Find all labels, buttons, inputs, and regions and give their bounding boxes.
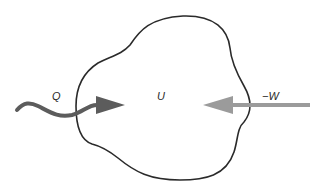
internal-energy-label: U	[157, 91, 165, 102]
heat-arrowhead-icon	[96, 96, 125, 114]
work-arrow-shaft	[230, 103, 310, 107]
work-arrowhead-icon	[203, 96, 233, 114]
heat-arrow	[17, 96, 125, 116]
work-label: −W	[262, 91, 279, 102]
thermodynamic-system-diagram: Q U −W	[0, 0, 328, 189]
heat-arrow-shaft	[17, 103, 99, 115]
heat-label: Q	[52, 91, 61, 102]
work-arrow	[203, 96, 310, 114]
